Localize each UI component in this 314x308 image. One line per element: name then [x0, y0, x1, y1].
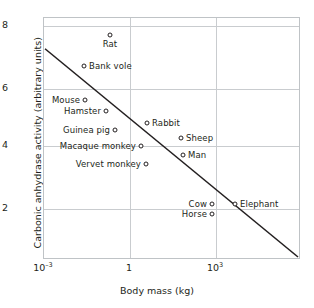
plot-area: RatBank voleMouseHamsterGuinea pigMacaqu…	[43, 17, 300, 259]
x-tick-label: 1	[126, 263, 132, 273]
data-point-marker	[145, 121, 150, 126]
x-tick-label: 10–3	[33, 263, 52, 273]
data-point-marker	[179, 136, 184, 141]
data-point-marker	[113, 128, 118, 133]
data-point-marker	[144, 162, 149, 167]
data-point-marker	[139, 144, 144, 149]
data-point-label: Rat	[103, 40, 118, 49]
data-point-marker	[181, 153, 186, 158]
data-point-label: Cow	[189, 200, 207, 209]
y-tick-label: 4	[0, 140, 8, 150]
data-point-marker	[104, 109, 109, 114]
data-point-label: Mouse	[52, 96, 80, 105]
data-point-label: Macaque monkey	[60, 142, 136, 151]
data-point-marker	[210, 212, 215, 217]
data-point-marker	[210, 202, 215, 207]
data-point-label: Hamster	[64, 107, 101, 116]
trend-line	[44, 18, 299, 258]
carbonic-anhydrase-scatter-figure: Carbonic anhydrase activity (arbitrary u…	[0, 0, 314, 308]
data-point-label: Elephant	[240, 200, 278, 209]
data-point-label: Man	[188, 151, 206, 160]
data-point-marker	[108, 33, 113, 38]
y-axis-title: Carbonic anhydrase activity (arbitrary u…	[33, 23, 43, 263]
x-tick-label: 103	[207, 263, 223, 273]
x-axis-title: Body mass (kg)	[0, 286, 314, 296]
data-point-label: Rabbit	[152, 119, 180, 128]
data-point-label: Vervet monkey	[76, 160, 141, 169]
data-point-label: Horse	[182, 210, 207, 219]
data-point-marker	[233, 202, 238, 207]
data-point-label: Guinea pig	[63, 126, 110, 135]
y-tick-label: 2	[0, 203, 8, 213]
data-point-label: Bank vole	[89, 62, 132, 71]
data-point-marker	[82, 64, 87, 69]
data-point-marker	[83, 98, 88, 103]
y-tick-label: 8	[0, 20, 8, 30]
data-point-label: Sheep	[186, 134, 213, 143]
y-tick-label: 6	[0, 83, 8, 93]
